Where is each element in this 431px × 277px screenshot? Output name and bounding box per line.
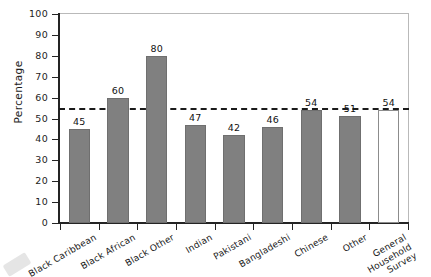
y-tick-label-60: 60 [14,93,48,103]
bar-7 [339,116,361,223]
bar-value-label-5: 46 [253,115,293,125]
bar-chart: Percentage 0102030405060708090100 456080… [0,0,431,277]
y-tick-100 [52,14,58,15]
bar-value-label-8: 54 [369,98,409,108]
bar-value-label-2: 80 [137,44,177,54]
y-tick-60 [52,98,58,99]
bar-5 [262,127,284,223]
plot-frame-top [60,13,409,14]
bar-4 [223,135,245,223]
x-tick-8 [408,224,409,230]
bar-0 [69,129,91,223]
bar-value-label-6: 54 [291,98,331,108]
x-tick-3 [215,224,216,230]
y-tick-10 [52,202,58,203]
y-tick-0 [52,223,58,224]
plot-frame-right [408,13,409,224]
x-tick-5 [292,224,293,230]
y-tick-label-80: 80 [14,51,48,61]
y-tick-label-30: 30 [14,155,48,165]
bar-value-label-7: 51 [330,104,370,114]
y-tick-label-0: 0 [14,218,48,228]
y-tick-label-100: 100 [14,9,48,19]
bar-2 [146,56,168,223]
bar-1 [107,98,129,223]
y-tick-label-90: 90 [14,30,48,40]
y-tick-90 [52,35,58,36]
x-tick-7 [369,224,370,230]
y-tick-label-40: 40 [14,134,48,144]
bar-value-label-3: 47 [175,113,215,123]
x-tick-6 [331,224,332,230]
y-tick-label-70: 70 [14,72,48,82]
y-tick-50 [52,119,58,120]
y-tick-80 [52,56,58,57]
bar-3 [185,125,207,223]
x-tick-2 [176,224,177,230]
bar-value-label-1: 60 [98,86,138,96]
x-tick-0 [99,224,100,230]
y-tick-40 [52,139,58,140]
y-tick-30 [52,160,58,161]
y-tick-label-10: 10 [14,197,48,207]
x-tick-1 [137,224,138,230]
y-tick-label-20: 20 [14,176,48,186]
bar-8 [378,110,400,223]
bar-value-label-4: 42 [214,123,254,133]
y-tick-70 [52,77,58,78]
x-tick-origin [60,224,61,230]
bar-6 [301,110,323,223]
y-tick-label-50: 50 [14,114,48,124]
bar-value-label-0: 45 [59,117,99,127]
x-tick-4 [253,224,254,230]
y-tick-20 [52,181,58,182]
